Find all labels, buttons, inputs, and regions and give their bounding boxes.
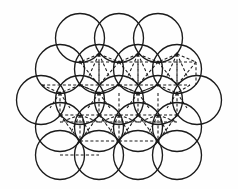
sphere-packing-diagram [0,0,238,189]
lattice-node [59,92,62,95]
lattice-node [79,140,82,143]
lattice-node [176,53,179,56]
lattice-node [79,84,82,87]
lattice-node [137,114,140,117]
lattice-node [118,140,121,143]
lattice-node [118,61,121,64]
lattice-node [137,53,140,56]
lattice-node [98,53,101,56]
lattice-node [98,114,101,117]
lattice-node [118,84,121,87]
lattice-node [79,61,82,64]
lattice-node [157,140,160,143]
lattice-node [137,92,140,95]
lattice-node [176,92,179,95]
lattice-node [59,114,62,117]
close-packed-sphere-figure [0,0,238,189]
lattice-node [98,92,101,95]
lattice-node [157,61,160,64]
lattice-node [176,114,179,117]
lattice-node [157,84,160,87]
